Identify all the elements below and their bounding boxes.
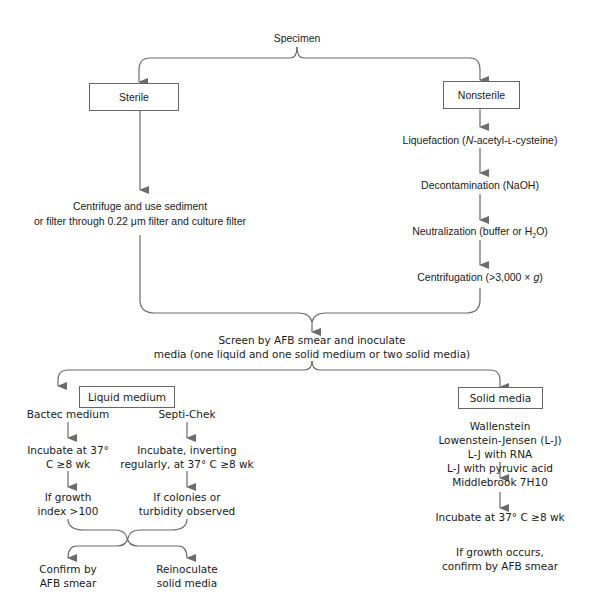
septichek-cond-line1: If colonies or	[117, 490, 257, 504]
confirm-line1: Confirm by	[18, 562, 118, 576]
bactec-title: Bactec medium	[18, 407, 118, 421]
reinoculate-line1: Reinoculate	[137, 562, 237, 576]
media-lj-pyruvic: L-J with pyruvic acid	[430, 461, 570, 475]
media-middlebrook: Middlebrook 7H10	[430, 475, 570, 489]
media-wallenstein: Wallenstein	[430, 419, 570, 433]
sterile-box: Sterile	[89, 83, 179, 111]
step-neutralization: Neutralization (buffer or H2O)	[390, 224, 570, 239]
nonsterile-box: Nonsterile	[443, 81, 520, 109]
bactec-cond-line2: index >100	[18, 504, 118, 518]
step-decontamination: Decontamination (NaOH)	[390, 178, 570, 193]
sterile-step-line2: or filter through 0.22 μm filter and cul…	[10, 214, 270, 229]
step-liquefaction: Liquefaction (N-acetyl-ʟ-cysteine)	[390, 133, 570, 148]
liquid-medium-label: Liquid medium	[88, 390, 166, 404]
solid-media-box: Solid media	[458, 387, 543, 409]
sterile-step-line1: Centrifuge and use sediment	[10, 199, 270, 214]
solid-result-line1: If growth occurs,	[420, 545, 580, 559]
liquid-medium-box: Liquid medium	[79, 386, 175, 408]
screen-line2: media (one liquid and one solid medium o…	[112, 347, 512, 361]
septichek-incubate-line1: Incubate, inverting	[117, 443, 257, 457]
solid-media-label: Solid media	[470, 391, 532, 405]
septichek-title: Septi-Chek	[117, 407, 257, 421]
bactec-incubate-line2: C ≥8 wk	[18, 457, 118, 471]
bactec-incubate-line1: Incubate at 37°	[18, 443, 118, 457]
reinoculate-line2: solid media	[137, 576, 237, 590]
septichek-incubate-line2: regularly, at 37° C ≥8 wk	[117, 457, 257, 471]
media-lj-rna: L-J with RNA	[430, 447, 570, 461]
sterile-label: Sterile	[119, 91, 149, 103]
septichek-cond-line2: turbidity observed	[117, 504, 257, 518]
bactec-cond-line1: If growth	[18, 490, 118, 504]
confirm-line2: AFB smear	[18, 576, 118, 590]
flowchart: Specimen Sterile Nonsterile Centrifuge a…	[0, 0, 590, 610]
specimen-label: Specimen	[247, 31, 347, 46]
solid-result-line2: confirm by AFB smear	[420, 559, 580, 573]
solid-incubate: Incubate at 37° C ≥8 wk	[420, 510, 580, 524]
media-lowenstein-jensen: Lowenstein-Jensen (L-J)	[430, 433, 570, 447]
screen-line1: Screen by AFB smear and inoculate	[112, 333, 512, 347]
nonsterile-label: Nonsterile	[458, 89, 505, 101]
step-centrifugation: Centrifugation (>3,000 × g)	[390, 270, 570, 285]
